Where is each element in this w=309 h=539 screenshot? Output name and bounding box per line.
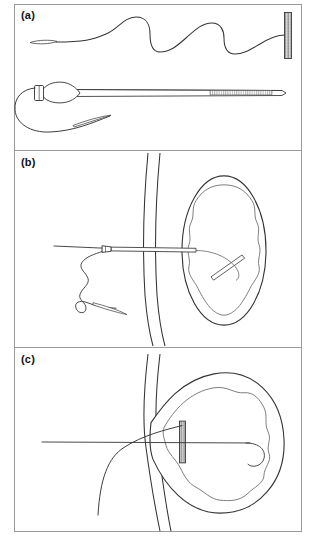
deployed-stent-marker <box>180 421 186 463</box>
guidewire-flat-tip <box>93 303 127 315</box>
panel-label-a: (a) <box>21 10 35 21</box>
panel-a: (a) <box>14 4 302 150</box>
panel-c-illustration <box>14 348 302 532</box>
needle-hub <box>102 246 111 253</box>
panel-label-b: (b) <box>21 157 36 168</box>
catheter-hub <box>35 86 44 101</box>
panel-label-c: (c) <box>21 354 35 365</box>
catheter-hatched-segment <box>210 91 272 95</box>
panel-b: (b) <box>14 150 302 347</box>
panel-a-illustration <box>14 4 302 150</box>
needle-catheter <box>111 247 196 252</box>
panel-b-illustration <box>14 151 302 347</box>
guidewire-proximal <box>54 246 102 248</box>
panel-c: (c) <box>14 347 302 532</box>
hatched-marker-bar <box>285 13 292 59</box>
guidewire-flat-tip <box>30 40 57 44</box>
figure-root: (a) <box>0 0 309 539</box>
dilator-olive-tip <box>41 82 80 103</box>
guidewire-serpentine <box>56 17 285 54</box>
